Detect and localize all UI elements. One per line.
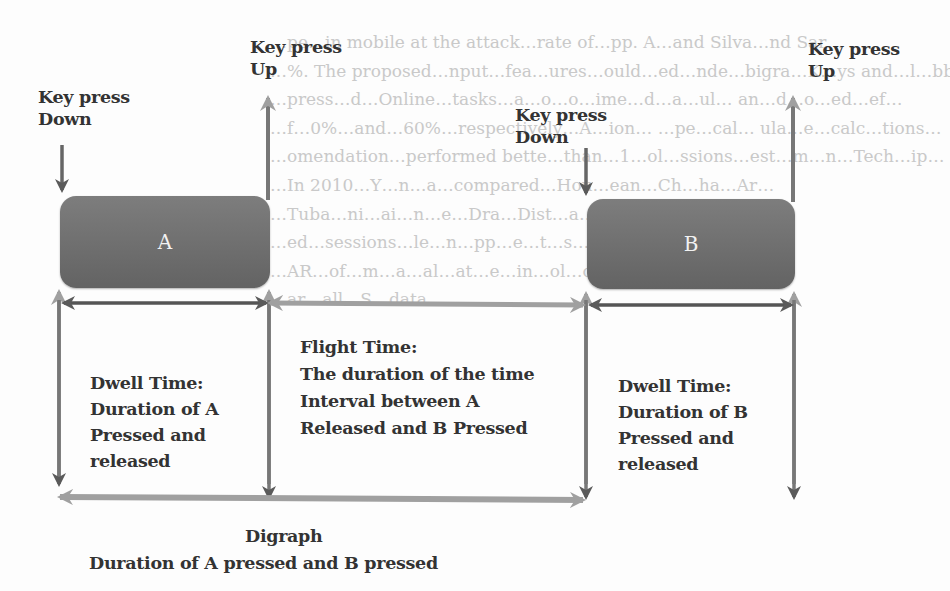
flight-time-arrow	[270, 303, 583, 305]
flight-time-label: Flight Time:The duration of the time Int…	[300, 334, 534, 442]
key-b-box: B	[587, 199, 795, 289]
key-a-box: A	[60, 196, 270, 288]
dwell-time-b-label: Dwell Time:Duration of B Pressed andrele…	[618, 373, 748, 477]
key-a-label: A	[158, 230, 172, 254]
key-b-up-label: Key pressUp	[808, 38, 900, 82]
digraph-title: Digraph	[245, 525, 322, 547]
key-a-down-label: Key pressDown	[38, 86, 130, 130]
key-b-label: B	[684, 232, 699, 256]
digraph-description: Duration of A pressed and B pressed	[89, 552, 438, 574]
digraph-arrow	[60, 497, 583, 500]
dwell-time-a-label: Dwell Time:Duration of A Pressed andrele…	[90, 370, 219, 474]
key-b-down-label: Key pressDown	[515, 104, 607, 148]
key-a-up-label: Key pressUp	[250, 36, 342, 80]
